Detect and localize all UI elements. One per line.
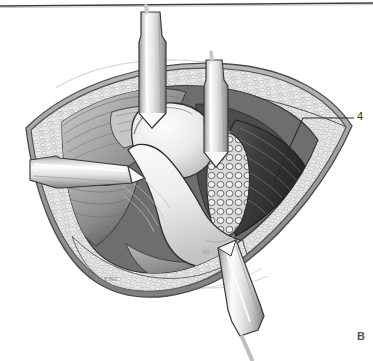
surgical-illustration xyxy=(0,0,373,361)
artist-signature: ENC xyxy=(104,275,119,283)
panel-label: B xyxy=(357,330,365,342)
callout-label-4: 4 xyxy=(357,110,363,122)
